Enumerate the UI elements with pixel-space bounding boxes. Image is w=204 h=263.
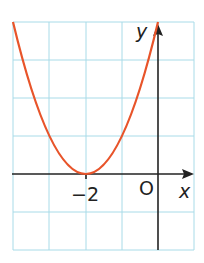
origin-label: O — [139, 179, 154, 198]
grid — [13, 22, 194, 250]
x-axis-label: x — [179, 182, 190, 201]
tick-label-minus2: −2 — [71, 185, 99, 204]
y-axis-label: y — [136, 22, 147, 41]
axes — [12, 30, 188, 250]
chart-canvas — [0, 0, 204, 263]
